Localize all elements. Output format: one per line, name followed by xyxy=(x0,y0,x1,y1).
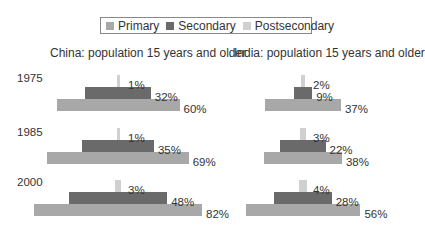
india-2000-postsecondary-bar xyxy=(299,180,307,192)
china-1975-primary-label: 60% xyxy=(184,103,207,115)
legend-label: Secondary xyxy=(178,19,235,33)
china-2000-secondary-label: 48% xyxy=(171,196,194,208)
legend-item-secondary: Secondary xyxy=(166,19,235,33)
india-1985-postsecondary-bar xyxy=(300,128,306,140)
india-1975-secondary-label: 9% xyxy=(316,91,333,103)
year-label-2000: 2000 xyxy=(17,176,43,188)
china-2000-secondary-bar xyxy=(69,192,167,204)
china-2000-postsecondary-label: 3% xyxy=(128,184,145,196)
india-1985-primary-label: 38% xyxy=(346,156,369,168)
legend-item-postsecondary: Postsecondary xyxy=(243,19,334,33)
china-1985-postsecondary-bar xyxy=(117,128,120,140)
china-1975-postsecondary-bar xyxy=(117,75,120,87)
postsecondary-swatch-icon xyxy=(243,22,251,30)
year-label-1975: 1975 xyxy=(17,72,43,84)
primary-swatch-icon xyxy=(106,22,114,30)
india-1975-postsecondary-label: 2% xyxy=(313,79,330,91)
china-1985-primary-label: 69% xyxy=(193,156,216,168)
india-1985-postsecondary-label: 3% xyxy=(313,132,330,144)
legend-item-primary: Primary xyxy=(106,19,159,33)
india-1985-secondary-label: 22% xyxy=(330,144,353,156)
china-1985-postsecondary-label: 1% xyxy=(128,132,145,144)
legend-label: Postsecondary xyxy=(255,19,334,33)
secondary-swatch-icon xyxy=(166,22,174,30)
legend-label: Primary xyxy=(118,19,159,33)
year-label-1985: 1985 xyxy=(17,126,43,138)
india-1975-primary-label: 37% xyxy=(345,103,368,115)
chart-legend: Primary Secondary Postsecondary xyxy=(100,17,312,34)
india-2000-primary-label: 56% xyxy=(364,208,387,220)
india-1975-postsecondary-bar xyxy=(301,75,305,87)
india-1975-secondary-bar xyxy=(294,87,312,99)
china-panel-title: China: population 15 years and older xyxy=(50,46,246,60)
india-2000-postsecondary-label: 4% xyxy=(313,184,330,196)
india-panel-title: India: population 15 years and older xyxy=(234,46,425,60)
china-2000-postsecondary-bar xyxy=(115,180,121,192)
india-2000-secondary-label: 28% xyxy=(336,196,359,208)
china-1975-postsecondary-label: 1% xyxy=(128,79,145,91)
china-1975-secondary-label: 32% xyxy=(155,91,178,103)
china-2000-primary-label: 82% xyxy=(206,208,229,220)
china-1985-secondary-label: 35% xyxy=(158,144,181,156)
